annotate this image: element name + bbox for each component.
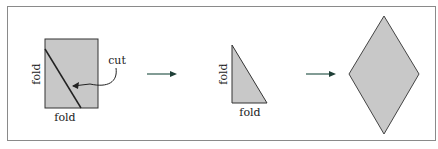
step2-fold-bottom-label: fold [239, 106, 260, 119]
diagram-canvas: fold fold cut fold fold [0, 0, 438, 149]
arrow-2-icon [306, 71, 336, 77]
cut-label: cut [108, 54, 126, 67]
arrow-1-icon [147, 71, 177, 77]
step1-fold-bottom-label: fold [54, 111, 75, 124]
step2-fold-left-label: fold [217, 63, 230, 84]
step2-triangle: fold fold [217, 45, 267, 119]
step1-rectangle: fold fold cut [30, 39, 126, 124]
step1-fold-left-label: fold [30, 63, 43, 84]
step3-rhombus [349, 16, 419, 134]
